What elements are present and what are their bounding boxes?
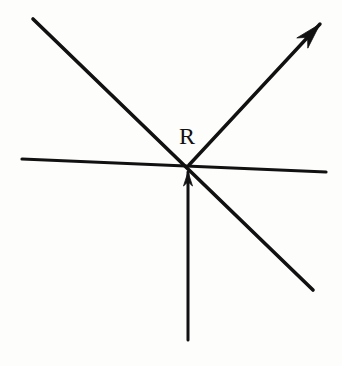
figure-drawing <box>0 0 342 366</box>
point-label-r: R <box>179 124 195 148</box>
figure-canvas: R <box>0 0 342 366</box>
horizontal-line <box>22 159 326 172</box>
resultant-ray-northeast <box>189 24 320 165</box>
diagonal-line-nw-se <box>33 19 313 290</box>
